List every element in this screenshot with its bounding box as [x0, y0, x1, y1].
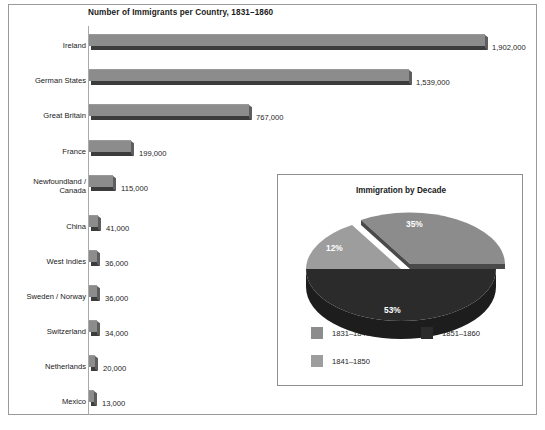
bar-category-label: China: [66, 222, 86, 231]
bar-category-label: Switzerland: [47, 327, 86, 336]
bar-category-label: Sweden / Norway: [26, 292, 86, 301]
bar-face: [89, 285, 97, 297]
bar-side: [485, 35, 488, 50]
bar-face: [89, 320, 97, 332]
bar-value-label: 767,000: [256, 113, 283, 122]
bar-value-label: 1,902,000: [492, 43, 526, 52]
bar-face: [89, 104, 249, 116]
bar-face: [89, 215, 98, 227]
bar-value-label: 36,000: [105, 259, 128, 268]
legend-swatch-icon: [311, 355, 323, 367]
bar-face: [89, 69, 409, 81]
pie-pct-label-1841-1850: 35%: [406, 219, 423, 229]
pie-legend-item-1841-1850: 1841–1850: [311, 355, 370, 367]
bar-shadow: [91, 152, 133, 156]
bar-value-label: 115,000: [121, 184, 148, 193]
bar-side: [97, 251, 100, 266]
bar-side: [97, 286, 100, 301]
bar-shadow: [91, 81, 411, 85]
legend-label: 1841–1850: [332, 357, 370, 366]
bar-category-label: France: [62, 147, 86, 156]
bar-face: [89, 250, 97, 262]
legend-swatch-icon: [421, 327, 433, 339]
bar-category-label: Netherlands: [45, 362, 86, 371]
bar-face: [89, 175, 113, 187]
legend-swatch-icon: [311, 327, 323, 339]
bar-side: [95, 356, 98, 371]
bar-shadow: [91, 116, 251, 120]
bar-face: [89, 140, 131, 152]
bar-value-label: 199,000: [139, 149, 166, 158]
pie-legend-item-1831-1840: 1831–1840: [311, 327, 370, 339]
pie-pct-label-1851-1860: 53%: [384, 305, 401, 315]
bar-value-label: 20,000: [103, 364, 126, 373]
legend-label: 1851–1860: [442, 329, 480, 338]
bar-category-label: Mexico: [62, 397, 86, 406]
bar-category-label: Ireland: [63, 41, 86, 50]
bar-category-label: West Indies: [46, 257, 86, 266]
pie-chart-graphic: [290, 199, 512, 339]
bar-side: [94, 391, 97, 406]
bar-value-label: 34,000: [105, 329, 128, 338]
bar-shadow: [91, 187, 115, 191]
bar-category-label: Newfoundland / Canada: [33, 177, 86, 196]
immigration-figure: Number of Immigrants per Country, 1831–1…: [0, 0, 545, 430]
bar-side: [97, 321, 100, 336]
bar-value-label: 36,000: [105, 294, 128, 303]
bar-shadow: [91, 46, 487, 50]
bar-side: [113, 176, 116, 191]
pie-inset-panel: Immigration by Decade 35% 12% 53% 1831–1…: [277, 174, 523, 386]
pie-legend-item-1851-1860: 1851–1860: [421, 327, 480, 339]
bar-category-label: Great Britain: [43, 111, 86, 120]
bar-face: [89, 34, 485, 46]
pie-pct-label-1831-1840: 12%: [326, 243, 343, 253]
bar-side: [249, 105, 252, 120]
bar-value-label: 41,000: [106, 224, 129, 233]
pie-slice-exploded-edge-right: [410, 264, 505, 269]
bar-category-label: German States: [35, 76, 86, 85]
bar-value-label: 1,539,000: [416, 78, 450, 87]
bar-value-label: 13,000: [102, 399, 125, 408]
bar-side: [409, 70, 412, 85]
pie-chart-title: Immigration by Decade: [278, 186, 524, 195]
bar-side: [98, 216, 101, 231]
legend-label: 1831–1840: [332, 329, 370, 338]
bar-side: [131, 141, 134, 156]
